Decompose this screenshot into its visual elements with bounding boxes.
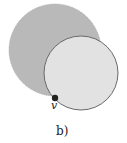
diagram-canvas [0, 0, 127, 143]
vertex-label: v [51, 99, 57, 112]
figure-caption: b) [56, 124, 68, 138]
